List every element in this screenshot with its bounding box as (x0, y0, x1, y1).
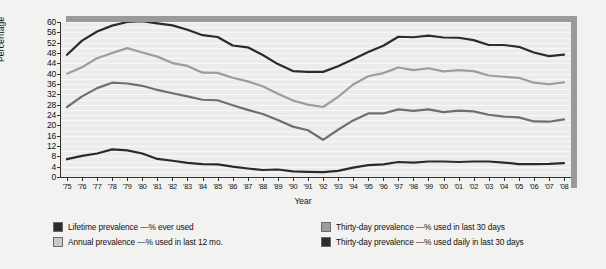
x-tick-label: '91 (304, 182, 313, 191)
y-tick-mark (57, 125, 60, 126)
y-tick-mark (57, 136, 60, 137)
series-line-thirty_day (67, 83, 564, 140)
x-tick-mark (489, 177, 490, 181)
x-tick-mark (428, 177, 429, 181)
chart-figure: 04812162024283236404448525660 Percentage… (0, 0, 606, 269)
x-tick-mark (474, 177, 475, 181)
x-tick-mark (323, 177, 324, 181)
x-tick-label: '94 (349, 182, 358, 191)
x-tick-mark (142, 177, 143, 181)
x-tick-label: '77 (93, 182, 102, 191)
x-tick-label: '08 (560, 182, 569, 191)
y-tick-label: 48 (34, 48, 56, 58)
x-tick-label: '97 (394, 182, 403, 191)
y-tick-label: 24 (34, 110, 56, 120)
y-tick-label: 0 (34, 172, 56, 182)
x-tick-label: '75 (63, 182, 72, 191)
y-tick-label: 12 (34, 141, 56, 151)
x-tick-label: '89 (273, 182, 282, 191)
x-tick-mark (97, 177, 98, 181)
y-tick-label: 4 (34, 162, 56, 172)
series-lines (60, 22, 571, 177)
y-tick-label: 52 (34, 38, 56, 48)
y-tick-label: 16 (34, 131, 56, 141)
legend-label-thirty-day: Thirty-day prevalence —% used in last 30… (336, 222, 505, 232)
x-tick-mark (233, 177, 234, 181)
y-tick-mark (57, 74, 60, 75)
chart-legend: Lifetime prevalence —% ever used Thirty-… (0, 222, 606, 252)
x-tick-mark (263, 177, 264, 181)
y-tick-mark (57, 156, 60, 157)
x-tick-mark (293, 177, 294, 181)
x-tick-mark (82, 177, 83, 181)
y-tick-label: 60 (34, 17, 56, 27)
y-tick-mark (57, 43, 60, 44)
x-tick-mark (534, 177, 535, 181)
x-axis-title: Year (0, 196, 606, 206)
y-tick-label: 32 (34, 89, 56, 99)
x-axis-line (60, 177, 571, 178)
y-tick-label: 44 (34, 58, 56, 68)
y-tick-mark (57, 22, 60, 23)
x-tick-label: '90 (289, 182, 298, 191)
x-tick-label: '88 (258, 182, 267, 191)
x-tick-label: '79 (123, 182, 132, 191)
legend-swatch-lifetime (53, 222, 63, 232)
y-axis-title: Percentage (0, 17, 6, 62)
y-tick-mark (57, 32, 60, 33)
y-tick-label: 28 (34, 100, 56, 110)
x-tick-label: '05 (514, 182, 523, 191)
x-tick-label: '81 (153, 182, 162, 191)
x-tick-mark (203, 177, 204, 181)
x-tick-mark (398, 177, 399, 181)
x-tick-mark (519, 177, 520, 181)
y-tick-label: 20 (34, 120, 56, 130)
y-tick-mark (57, 167, 60, 168)
y-tick-mark (57, 63, 60, 64)
y-tick-mark (57, 53, 60, 54)
x-tick-mark (248, 177, 249, 181)
y-tick-mark (57, 94, 60, 95)
y-tick-label: 8 (34, 151, 56, 161)
legend-item-thirty-day: Thirty-day prevalence —% used in last 30… (321, 222, 553, 232)
x-tick-mark (338, 177, 339, 181)
x-tick-mark (127, 177, 128, 181)
x-tick-label: '95 (364, 182, 373, 191)
x-tick-label: '83 (183, 182, 192, 191)
legend-label-daily: Thirty-day prevalence —% used daily in l… (336, 237, 524, 247)
x-tick-label: '06 (530, 182, 539, 191)
y-tick-label: 56 (34, 27, 56, 37)
legend-item-daily: Thirty-day prevalence —% used daily in l… (321, 237, 553, 247)
x-tick-label: '98 (409, 182, 418, 191)
x-tick-label: '78 (108, 182, 117, 191)
x-tick-mark (413, 177, 414, 181)
x-tick-mark (444, 177, 445, 181)
x-tick-label: '96 (379, 182, 388, 191)
y-tick-mark (57, 105, 60, 106)
x-tick-label: '00 (439, 182, 448, 191)
plot-area (60, 22, 571, 177)
x-tick-mark (564, 177, 565, 181)
x-tick-label: '93 (334, 182, 343, 191)
x-tick-mark (112, 177, 113, 181)
series-line-daily (67, 149, 564, 172)
x-tick-label: '02 (469, 182, 478, 191)
legend-swatch-daily (321, 237, 331, 247)
x-tick-mark (172, 177, 173, 181)
x-tick-mark (157, 177, 158, 181)
x-tick-label: '86 (228, 182, 237, 191)
y-axis-line (60, 22, 61, 177)
x-tick-mark (383, 177, 384, 181)
x-tick-label: '80 (138, 182, 147, 191)
series-line-lifetime (67, 22, 564, 72)
legend-label-annual: Annual prevalence —% used in last 12 mo. (68, 237, 223, 247)
legend-item-annual: Annual prevalence —% used in last 12 mo. (53, 237, 301, 247)
legend-swatch-annual (53, 237, 63, 247)
x-tick-label: '82 (168, 182, 177, 191)
frame-right-bar (571, 16, 577, 188)
x-tick-mark (218, 177, 219, 181)
x-tick-mark (504, 177, 505, 181)
x-tick-label: '84 (198, 182, 207, 191)
y-tick-mark (57, 115, 60, 116)
x-tick-mark (67, 177, 68, 181)
